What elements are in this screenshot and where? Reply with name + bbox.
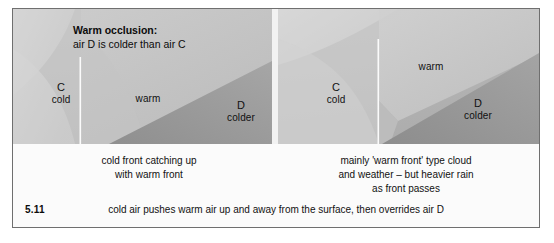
label-warm-right: warm: [419, 61, 444, 72]
cold-air-mass-C: [13, 9, 81, 144]
panel-right-artwork: [278, 9, 539, 144]
label-warm-air-right: warm: [406, 61, 456, 74]
panel-title: Warm occlusion: air D is colder than air…: [73, 23, 186, 51]
panel-warm-front-type-weather: C cold warm D colder: [278, 9, 539, 144]
label-colder-air-D-left: D colder: [219, 99, 263, 124]
label-warm-left: warm: [136, 93, 161, 104]
caption-right: mainly 'warm front' type cloud and weath…: [281, 154, 531, 196]
label-letter-D-left: D: [219, 99, 263, 112]
label-colder-left: colder: [227, 112, 255, 123]
caption-right-line-2: and weather – but heavier rain: [281, 168, 531, 182]
label-cold-right: cold: [327, 94, 346, 105]
caption-left: cold front catching up with warm front: [33, 154, 265, 182]
caption-left-line-1: cold front catching up: [33, 154, 265, 168]
panel-title-sub: air D is colder than air C: [73, 38, 186, 50]
diagram-panels: Warm occlusion: air D is colder than air…: [13, 9, 539, 144]
label-colder-air-D-right: D colder: [456, 97, 500, 122]
caption-band: cold front catching up with warm front m…: [13, 144, 539, 227]
panel-title-strong: Warm occlusion:: [73, 23, 186, 37]
caption-right-line-3: as front passes: [281, 182, 531, 196]
caption-right-line-1: mainly 'warm front' type cloud: [281, 154, 531, 168]
label-cold-air-C-left: C cold: [41, 81, 81, 106]
label-cold-left: cold: [52, 94, 71, 105]
figure-warm-occlusion: Warm occlusion: air D is colder than air…: [0, 0, 554, 243]
label-letter-C-left: C: [41, 81, 81, 94]
label-warm-air-left: warm: [123, 93, 173, 106]
label-cold-air-C-right: C cold: [316, 81, 356, 106]
label-letter-D-right: D: [456, 97, 500, 110]
surface-front-marker: [378, 39, 380, 144]
panel-cold-front-catching-up: Warm occlusion: air D is colder than air…: [13, 9, 272, 144]
caption-left-line-2: with warm front: [33, 168, 265, 182]
label-colder-right: colder: [464, 110, 492, 121]
figure-summary-caption: cold air pushes warm air up and away fro…: [13, 204, 539, 215]
label-letter-C-right: C: [316, 81, 356, 94]
figure-frame: Warm occlusion: air D is colder than air…: [12, 8, 540, 228]
